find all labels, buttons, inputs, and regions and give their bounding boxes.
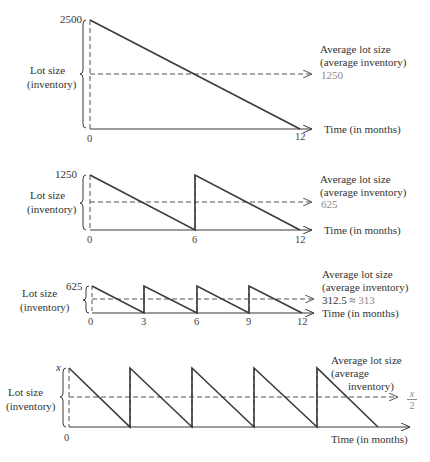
panel-1-avg-label-line2: (average inventory) [320,56,406,69]
panel-1-ylabel-line1: Lot size [30,64,65,77]
brace-icon [60,368,66,427]
panel-3-ylabel-line2: (inventory) [20,301,69,314]
brace-icon [80,175,86,230]
panel-2-avg-value: 625 [321,198,338,211]
panel-4-tick-0: 0 [64,432,69,444]
panel-3-ylabel-line1: Lot size [22,287,57,300]
panel-4-ylabel-line1: Lot size [8,386,43,399]
panel-4-top-label: x [56,361,61,374]
panel-3-top-label: 625 [66,280,83,293]
panel-2-ylabel-line2: (inventory) [27,203,76,216]
brace-icon [83,286,89,313]
panel-3-avg-value-rounded: 313 [358,294,375,306]
panel-1-ylabel-line2: (inventory) [27,78,76,91]
panel-1-chart [80,20,312,129]
panel-2-avg-label-line1: Average lot size [320,173,391,186]
panel-3-xlabel: Time (in months) [322,307,399,320]
panel-4-avg-label-line3: inventory) [348,380,394,393]
panel-1-tick-0: 0 [87,133,92,145]
panel-4-avg-label-line1: Average lot size [331,354,402,367]
panel-4-avg-value-fraction: x 2 [407,388,417,411]
panel-4-xlabel: Time (in months) [331,433,408,446]
panel-3-tick-9: 9 [246,316,251,328]
panel-4-avg-label-line2: (average [331,367,369,380]
panel-1-avg-value: 1250 [321,69,343,82]
panel-2-tick-12: 12 [295,234,306,246]
brace-icon [80,20,86,128]
panel-1-tick-12: 12 [295,131,306,143]
panel-3-tick-3: 3 [141,316,146,328]
panel-1-xlabel: Time (in months) [324,123,401,136]
panel-4-avg-numerator: x [407,388,417,400]
panel-4-ylabel-line2: (inventory) [6,400,55,413]
panel-3-avg-label-line1: Average lot size [322,268,393,281]
panel-3-avg-label-line2: (average inventory) [322,281,408,294]
panel-3-avg-value-exact: 312.5 ≈ [322,294,358,306]
panel-3-tick-12: 12 [297,316,308,328]
panel-2-ylabel-line1: Lot size [30,189,65,202]
panel-1-top-label: 2500 [60,13,82,26]
panel-3-tick-0: 0 [88,316,93,328]
panel-1-avg-label-line1: Average lot size [320,43,391,56]
panel-2-chart [80,175,312,230]
panel-3-chart [83,286,314,313]
panel-2-tick-0: 0 [87,234,92,246]
panel-2-top-label: 1250 [55,168,77,181]
panel-2-tick-6: 6 [192,234,197,246]
panel-3-tick-6: 6 [194,316,199,328]
panel-3-avg-value: 312.5 ≈ 313 [322,294,375,307]
panel-4-avg-denominator: 2 [407,400,417,411]
panel-2-xlabel: Time (in months) [324,224,401,237]
